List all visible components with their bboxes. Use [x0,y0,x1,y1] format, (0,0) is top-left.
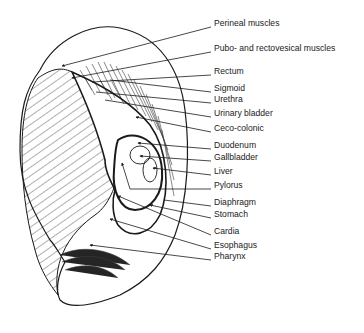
label-gallbladder: Gallbladder [214,152,258,162]
label-duodenum: Duodenum [214,140,256,150]
label-liver: Liver [214,166,233,176]
label-stomach: Stomach [214,209,248,219]
label-ceco-colonic: Ceco-colonic [214,123,264,133]
label-cardia: Cardia [214,226,239,236]
label-urinary-bladder: Urinary bladder [214,108,273,118]
label-diaphragm: Diaphragm [214,197,256,207]
label-pharynx: Pharynx [214,251,246,261]
label-pylorus: Pylorus [214,180,243,190]
label-urethra: Urethra [214,94,243,104]
label-pubo-rectovesical-muscles: Pubo- and rectovesical muscles [214,43,335,53]
label-esophagus: Esophagus [214,240,257,250]
label-perineal-muscles: Perineal muscles [214,18,279,28]
label-rectum: Rectum [214,66,244,76]
label-sigmoid: Sigmoid [214,83,245,93]
